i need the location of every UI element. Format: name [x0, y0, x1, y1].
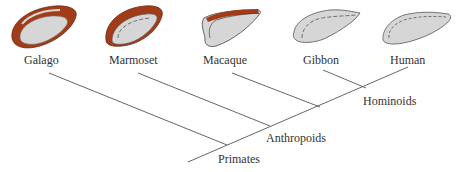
- gibbon-branch-line: [323, 70, 366, 88]
- taxon-label-galago: Galago: [24, 53, 59, 68]
- macaque-branch-line: [232, 73, 320, 107]
- marmoset-branch-line: [138, 73, 270, 126]
- human-brain-icon: [383, 12, 451, 44]
- taxon-label-marmoset: Marmoset: [109, 53, 158, 68]
- taxon-label-macaque: Macaque: [203, 53, 247, 68]
- phylogeny-diagram: Galago Marmoset Macaque Gibbon Human Hom…: [0, 0, 465, 172]
- galago-branch-line: [49, 73, 227, 145]
- taxon-label-human: Human: [390, 53, 425, 68]
- tree-branches: [49, 67, 408, 162]
- galago-brain-icon: [12, 6, 76, 48]
- clade-label-anthropoids: Anthropoids: [266, 131, 326, 146]
- gibbon-brain-icon: [293, 10, 360, 43]
- macaque-brain-icon: [202, 9, 260, 47]
- main-trunk-line: [188, 67, 408, 162]
- marmoset-brain-icon: [106, 6, 163, 46]
- clade-label-hominoids: Hominoids: [363, 94, 416, 109]
- clade-label-primates: Primates: [218, 152, 260, 167]
- taxon-label-gibbon: Gibbon: [303, 53, 339, 68]
